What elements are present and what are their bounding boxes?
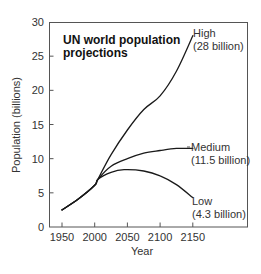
population-chart: 051015202530 19502000205021002150 UN wor… xyxy=(0,0,261,274)
series-high-line xyxy=(62,36,193,210)
annotation-high-value: (28 billion) xyxy=(193,40,244,52)
x-axis-label: Year xyxy=(131,245,154,257)
chart-title-line1: UN world population xyxy=(63,33,180,47)
annotation-medium-name: Medium xyxy=(191,141,230,153)
annotation-medium-value: (11.5 billion) xyxy=(191,154,250,166)
x-tick-label: 2000 xyxy=(82,231,106,243)
x-tick-label: 2100 xyxy=(148,231,172,243)
y-tick-label: 15 xyxy=(32,119,44,131)
y-tick-label: 10 xyxy=(32,153,44,165)
y-tick-label: 20 xyxy=(32,84,44,96)
series-low-line xyxy=(62,170,193,210)
annotation-high-name: High xyxy=(193,27,216,39)
y-tick-label: 30 xyxy=(32,16,44,28)
series-medium-line xyxy=(62,148,193,210)
x-tick-label: 2150 xyxy=(181,231,205,243)
x-tick-label: 2050 xyxy=(115,231,139,243)
x-axis-ticks: 19502000205021002150 xyxy=(50,223,205,244)
y-axis-ticks: 051015202530 xyxy=(32,16,54,233)
annotation-low-value: (4.3 billion) xyxy=(192,208,246,220)
series-lines xyxy=(62,36,193,210)
y-tick-label: 0 xyxy=(38,221,44,233)
y-tick-label: 5 xyxy=(38,187,44,199)
x-tick-label: 1950 xyxy=(50,231,74,243)
y-tick-label: 25 xyxy=(32,50,44,62)
y-axis-label: Population (billions) xyxy=(10,77,22,173)
chart-title-line2: projections xyxy=(63,46,128,60)
annotation-low-name: Low xyxy=(192,195,212,207)
